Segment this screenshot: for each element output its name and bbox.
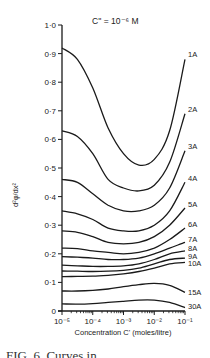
chart: C'' = 10⁻⁶ M 00·10·20·30·40·50·60·70·80·… [0,0,210,358]
curves [62,48,185,308]
curve-4A [62,182,185,231]
y-tick-label: 0·6 [44,135,56,144]
figure-caption: FIG. 6. Curves in ... [6,347,110,358]
curve-label-3A: 3A [188,142,197,151]
curve-10A [62,262,185,276]
x-tick-label: 10⁻³ [116,317,132,326]
y-tick-label: 0·7 [44,107,56,116]
curve-labels: 1A2A3A4A5A6A7A8A9A10A15A30A [188,50,201,310]
chart-title: C'' = 10⁻⁶ M [92,16,138,26]
y-axis-label: d²φ/dx² [11,182,20,207]
curve-15A [62,283,185,292]
y-tick-label: 0·2 [44,250,56,259]
curve-1A [62,48,185,166]
curve-label-6A: 6A [188,220,197,229]
x-tick-label: 10⁻⁵ [54,317,70,326]
x-axis-label: Concentration C' (moles/litre) [75,328,172,337]
y-tick-label: 0·9 [44,50,56,59]
curve-5A [62,208,185,244]
x-tick-label: 10⁻⁴ [85,317,102,326]
y-axis: 00·10·20·30·40·50·60·70·80·91·0 [44,21,62,316]
curve-label-4A: 4A [188,174,197,183]
x-tick-label: 10⁻² [146,317,162,326]
y-tick-label: 0·8 [44,78,56,87]
curve-label-2A: 2A [188,105,197,114]
x-tick-label: 10⁻¹ [177,317,193,326]
curve-label-10A: 10A [188,259,201,268]
curve-label-30A: 30A [188,302,201,311]
curve-label-15A: 15A [188,288,201,297]
y-tick-label: 0·5 [44,164,56,173]
y-tick-label: 1·0 [44,21,56,30]
x-axis: 10⁻⁵10⁻⁴10⁻³10⁻²10⁻¹ [54,311,193,326]
curve-3A [62,151,185,212]
curve-label-1A: 1A [188,50,197,59]
curve-7A [62,242,185,259]
curve-30A [62,300,185,308]
y-tick-label: 0·1 [44,278,56,287]
curve-label-5A: 5A [188,200,197,209]
y-tick-label: 0·3 [44,221,56,230]
y-tick-label: 0 [52,307,57,316]
curve-2A [62,114,185,191]
y-tick-label: 0·4 [44,193,56,202]
